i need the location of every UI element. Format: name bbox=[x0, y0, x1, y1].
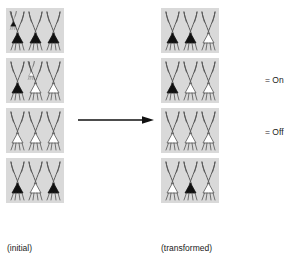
transformed-panel-1-neuron-1[interactable] bbox=[164, 11, 181, 51]
neuron-off-icon bbox=[45, 111, 62, 151]
neuron-on-icon bbox=[182, 161, 199, 201]
legend-row-on: = On bbox=[243, 60, 295, 100]
transformed-panel-2-neuron-2[interactable] bbox=[182, 61, 199, 101]
neuron-soma bbox=[48, 33, 59, 43]
neuron-soma bbox=[203, 183, 214, 193]
neuron-off-icon bbox=[27, 161, 44, 201]
neuron-soma bbox=[167, 33, 178, 43]
initial-panel-1[interactable] bbox=[6, 8, 64, 53]
neuron-off-icon bbox=[200, 61, 217, 101]
neuron-soma bbox=[203, 83, 214, 93]
transformation-arrow bbox=[78, 112, 154, 128]
initial-panel-2[interactable] bbox=[6, 58, 64, 103]
transformed-panel-3-neuron-1[interactable] bbox=[164, 111, 181, 151]
neuron-on-icon bbox=[45, 161, 62, 201]
neuron-soma bbox=[30, 133, 41, 143]
neuron-soma bbox=[167, 83, 178, 93]
neuron-soma bbox=[12, 183, 23, 193]
initial-panel-1-neuron-1[interactable] bbox=[9, 11, 26, 51]
initial-panel-3-neuron-1[interactable] bbox=[9, 111, 26, 151]
neuron-off-icon bbox=[9, 111, 26, 151]
neuron-on-icon bbox=[45, 11, 62, 51]
transformed-panel-3-neuron-3[interactable] bbox=[200, 111, 217, 151]
neuron-soma bbox=[12, 83, 23, 93]
initial-panel-2-neuron-2[interactable] bbox=[27, 61, 44, 101]
transformed-panel-4-neuron-1[interactable] bbox=[164, 161, 181, 201]
initial-column bbox=[6, 8, 68, 208]
neuron-on-icon bbox=[243, 61, 260, 99]
initial-panel-3-neuron-3[interactable] bbox=[45, 111, 62, 151]
neuron-off-icon bbox=[164, 161, 181, 201]
neuron-off-icon bbox=[182, 111, 199, 151]
neuron-off-icon bbox=[200, 111, 217, 151]
legend-row-off: = Off bbox=[243, 112, 295, 152]
transformed-column bbox=[161, 8, 223, 208]
neuron-soma bbox=[167, 133, 178, 143]
transformed-panel-3-neuron-2[interactable] bbox=[182, 111, 199, 151]
transformed-panel-4-neuron-2[interactable] bbox=[182, 161, 199, 201]
legend-on-label: = On bbox=[265, 75, 284, 85]
neuron-on-icon bbox=[9, 161, 26, 201]
neuron-soma bbox=[185, 33, 196, 43]
transformed-panel-2-neuron-1[interactable] bbox=[164, 61, 181, 101]
transformed-panel-1-neuron-2[interactable] bbox=[182, 11, 199, 51]
initial-panel-1-neuron-3[interactable] bbox=[45, 11, 62, 51]
neuron-soma bbox=[167, 183, 178, 193]
caption-transformed: (transformed) bbox=[161, 243, 212, 254]
neuron-off-icon bbox=[182, 61, 199, 101]
neuron-soma bbox=[30, 33, 41, 43]
neuron-on-icon bbox=[164, 61, 181, 101]
transformed-panel-2[interactable] bbox=[161, 58, 219, 103]
neuron-on-icon bbox=[182, 11, 199, 51]
neuron-soma bbox=[48, 83, 59, 93]
neuron-on-icon bbox=[164, 11, 181, 51]
neuron-soma bbox=[12, 33, 23, 43]
neuron-soma bbox=[12, 133, 23, 143]
neuron-soma bbox=[30, 83, 41, 93]
neuron-soma bbox=[203, 33, 214, 43]
transformed-panel-3[interactable] bbox=[161, 108, 219, 153]
initial-panel-4-neuron-2[interactable] bbox=[27, 161, 44, 201]
neuron-off-icon bbox=[243, 113, 260, 151]
neuron-on-icon bbox=[9, 11, 26, 51]
neuron-off-icon bbox=[200, 161, 217, 201]
transformed-panel-4[interactable] bbox=[161, 158, 219, 203]
neuron-on-icon bbox=[9, 61, 26, 101]
neuron-soma bbox=[48, 133, 59, 143]
neuron-soma bbox=[30, 183, 41, 193]
figure-root: = On = Off (initial) (transformed) bbox=[0, 0, 295, 265]
initial-panel-3[interactable] bbox=[6, 108, 64, 153]
top-cutoff-text bbox=[200, 0, 295, 6]
initial-panel-1-neuron-2[interactable] bbox=[27, 11, 44, 51]
neuron-off-icon bbox=[200, 11, 217, 51]
legend-off-label: = Off bbox=[265, 127, 284, 137]
initial-panel-3-neuron-2[interactable] bbox=[27, 111, 44, 151]
neuron-soma bbox=[185, 183, 196, 193]
neuron-soma bbox=[185, 83, 196, 93]
neuron-on-icon bbox=[27, 11, 44, 51]
neuron-soma bbox=[48, 183, 59, 193]
transformed-panel-2-neuron-3[interactable] bbox=[200, 61, 217, 101]
caption-initial: (initial) bbox=[7, 243, 32, 254]
neuron-soma bbox=[203, 133, 214, 143]
initial-panel-4-neuron-1[interactable] bbox=[9, 161, 26, 201]
neuron-off-icon bbox=[27, 61, 44, 101]
neuron-off-icon bbox=[45, 61, 62, 101]
initial-panel-2-neuron-3[interactable] bbox=[45, 61, 62, 101]
neuron-off-icon bbox=[164, 111, 181, 151]
arrow-icon bbox=[78, 112, 154, 128]
initial-panel-4[interactable] bbox=[6, 158, 64, 203]
transformed-panel-1-neuron-3[interactable] bbox=[200, 11, 217, 51]
initial-panel-2-neuron-1[interactable] bbox=[9, 61, 26, 101]
neuron-off-icon bbox=[27, 111, 44, 151]
transformed-panel-4-neuron-3[interactable] bbox=[200, 161, 217, 201]
neuron-soma bbox=[185, 133, 196, 143]
legend: = On = Off bbox=[243, 60, 295, 164]
transformed-panel-1[interactable] bbox=[161, 8, 219, 53]
initial-panel-4-neuron-3[interactable] bbox=[45, 161, 62, 201]
